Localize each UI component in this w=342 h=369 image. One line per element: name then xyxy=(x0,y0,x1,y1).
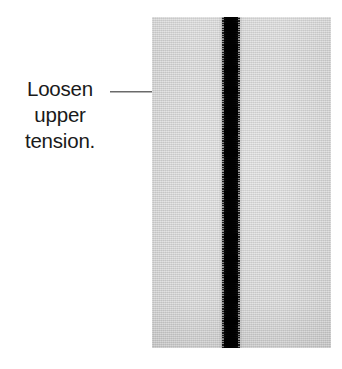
seam-stitches-texture xyxy=(224,17,238,348)
seam-stitch-line xyxy=(222,17,240,348)
caption-line-1: Loosen xyxy=(8,76,112,102)
figure-caption: Loosen upper tension. xyxy=(8,76,112,154)
caption-line-3: tension. xyxy=(8,128,112,154)
seam-thread-left xyxy=(222,17,224,348)
caption-line-2: upper xyxy=(8,102,112,128)
fabric-photo xyxy=(152,17,331,348)
seam-thread-right xyxy=(238,17,240,348)
figure-panel: Loosen upper tension. xyxy=(0,0,342,369)
